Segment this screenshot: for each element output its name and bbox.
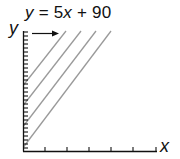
parallel-lines [24,31,112,147]
line-2 [24,31,82,105]
line-3 [24,31,97,126]
diagram-canvas [0,0,180,159]
x-axis-ticks [45,147,156,152]
arrow-icon [32,31,59,37]
y-axis-ticks [24,32,29,148]
